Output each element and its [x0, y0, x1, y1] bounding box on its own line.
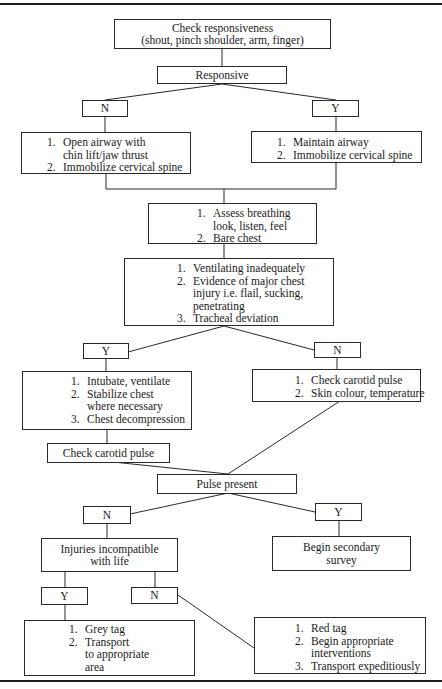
list-item: 1.Maintain airway: [293, 136, 421, 149]
item-text: Intubate, ventilate: [87, 375, 191, 388]
item-text: Stabilize chest: [87, 388, 191, 401]
secondary-survey-box: Begin secondary survey: [272, 536, 411, 571]
item-number: 2.: [69, 636, 78, 649]
list-item: 2.Begin appropriateinterventions: [311, 635, 425, 660]
intubate-box: 1.Intubate, ventilate 2.Stabilize chestw…: [22, 371, 192, 430]
no-label: N: [103, 509, 111, 522]
red-tag-box: 1.Red tag 2.Begin appropriateinterventio…: [254, 617, 426, 674]
item-number: 3.: [295, 660, 304, 673]
injuries-yes-box: Y: [41, 587, 88, 605]
chest-assessment-box: 1.Ventilating inadequately 2.Evidence of…: [124, 258, 334, 326]
yes-label: Y: [60, 590, 68, 603]
no-label: N: [333, 344, 341, 357]
item-text: Assess breathing: [213, 207, 316, 220]
item-text: Begin appropriate: [311, 635, 425, 648]
item-text: Transport expeditiously: [311, 660, 425, 673]
item-text: Ventilating inadequately: [193, 262, 333, 275]
secondary-survey-text: Begin secondary: [303, 541, 380, 554]
item-number: 2.: [295, 635, 304, 648]
item-text: injury i.e. flail, sucking,: [193, 287, 333, 300]
item-number: 1.: [47, 136, 56, 149]
responsive-decision-box: Responsive: [157, 66, 287, 84]
maintain-airway-box: 1.Maintain airway 2.Immobilize cervical …: [251, 131, 422, 163]
item-number: 3.: [177, 312, 186, 325]
list-item: 3.Transport expeditiously: [311, 660, 425, 673]
list-item: 1.Open airway withchin lift/jaw thrust: [63, 136, 190, 161]
list-item: 2.Evidence of major chestinjury i.e. fla…: [193, 275, 333, 313]
item-text: Open airway with: [63, 136, 190, 149]
carotid-skin-box: 1.Check carotid pulse 2.Skin colour, tem…: [252, 369, 421, 402]
item-number: 3.: [71, 413, 80, 426]
list-item: 3.Tracheal deviation: [193, 312, 333, 325]
open-airway-box: 1.Open airway withchin lift/jaw thrust 2…: [21, 132, 191, 174]
no-label: N: [150, 589, 158, 602]
check-carotid-pulse-box: Check carotid pulse: [47, 443, 170, 463]
list-item: 2.Skin colour, temperature: [311, 387, 420, 400]
item-text: Tracheal deviation: [193, 312, 333, 325]
injuries-incompatible-box: Injuries incompatible with life: [41, 538, 178, 572]
item-text: to appropriate: [85, 648, 194, 661]
item-number: 2.: [47, 161, 56, 174]
list-item: 3.Chest decompression: [87, 413, 191, 426]
item-number: 1.: [197, 207, 206, 220]
injuries-text: with life: [90, 555, 129, 568]
list-item: 1.Grey tag: [85, 623, 194, 636]
item-number: 1.: [177, 262, 186, 275]
pulse-no-box: N: [83, 506, 131, 524]
list-item: 1.Intubate, ventilate: [87, 375, 191, 388]
item-number: 2.: [295, 387, 304, 400]
grey-tag-box: 1.Grey tag 2.Transportto appropriatearea: [24, 620, 195, 676]
item-number: 2.: [197, 232, 206, 245]
item-text: where necessary: [87, 400, 191, 413]
item-text: Immobilize cervical spine: [63, 161, 190, 174]
item-text: Evidence of major chest: [193, 275, 333, 288]
item-number: 1.: [277, 136, 286, 149]
item-number: 1.: [295, 374, 304, 387]
list-item: 2.Immobilize cervical spine: [293, 149, 421, 162]
no-label: N: [101, 102, 109, 115]
item-text: Grey tag: [85, 623, 194, 636]
item-number: 2.: [177, 275, 186, 288]
item-number: 1.: [295, 622, 304, 635]
item-text: area: [85, 661, 194, 674]
injuries-no-box: N: [131, 587, 178, 604]
chest-no-box: N: [314, 342, 361, 358]
check-responsiveness-box: Check responsiveness (shout, pinch shoul…: [114, 19, 331, 49]
item-number: 1.: [69, 623, 78, 636]
item-text: look, listen, feel: [213, 220, 316, 233]
check-responsiveness-title: Check responsiveness: [172, 22, 273, 35]
item-text: Immobilize cervical spine: [293, 149, 421, 162]
item-text: Skin colour, temperature: [311, 387, 420, 400]
item-text: Chest decompression: [87, 413, 191, 426]
list-item: 1.Red tag: [311, 622, 425, 635]
item-number: 2.: [71, 388, 80, 401]
list-item: 1.Assess breathinglook, listen, feel: [213, 207, 316, 232]
item-text: Maintain airway: [293, 136, 421, 149]
yes-label: Y: [331, 102, 339, 115]
check-carotid-label: Check carotid pulse: [63, 447, 154, 460]
secondary-survey-text: survey: [326, 554, 357, 567]
item-text: penetrating: [193, 300, 333, 313]
pulse-present-box: Pulse present: [157, 474, 297, 494]
injuries-text: Injuries incompatible: [60, 543, 158, 556]
list-item: 2.Transportto appropriatearea: [85, 636, 194, 674]
pulse-present-label: Pulse present: [196, 478, 257, 491]
item-text: Transport: [85, 636, 194, 649]
item-text: interventions: [311, 647, 425, 660]
yes-label: Y: [334, 506, 342, 519]
item-text: Check carotid pulse: [311, 374, 420, 387]
yes-label: Y: [102, 345, 110, 358]
list-item: 2.Bare chest: [213, 232, 316, 245]
item-text: Red tag: [311, 622, 425, 635]
list-item: 1.Ventilating inadequately: [193, 262, 333, 275]
assess-breathing-box: 1.Assess breathinglook, listen, feel 2.B…: [148, 203, 317, 244]
pulse-yes-box: Y: [315, 503, 362, 521]
list-item: 2.Stabilize chestwhere necessary: [87, 388, 191, 413]
chest-yes-box: Y: [83, 343, 129, 359]
item-number: 1.: [71, 375, 80, 388]
item-number: 2.: [277, 149, 286, 162]
responsive-label: Responsive: [195, 69, 248, 82]
list-item: 1.Check carotid pulse: [311, 374, 420, 387]
responsive-yes-box: Y: [312, 100, 359, 117]
responsive-no-box: N: [82, 100, 128, 117]
